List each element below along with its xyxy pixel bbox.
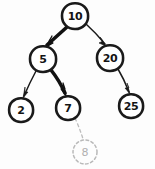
node-20-label: 20 [103, 52, 118, 65]
node-5[interactable]: 5 [30, 46, 56, 72]
node-25[interactable]: 25 [119, 94, 143, 118]
node-7[interactable]: 7 [56, 96, 80, 120]
node-2-label: 2 [17, 104, 24, 117]
edge-10-to-20 [86, 24, 106, 46]
edge-20-to-25 [118, 69, 130, 94]
edge-10-to-5 [46, 27, 67, 47]
node-7-label: 7 [64, 102, 71, 115]
edge-7-to-8 [75, 118, 83, 139]
tree-svg-canvas: 10 5 20 2 7 [0, 0, 155, 169]
node-5-label: 5 [39, 53, 46, 66]
edge-7-to-8-line [75, 118, 83, 139]
node-10[interactable]: 10 [62, 3, 88, 29]
node-20[interactable]: 20 [97, 45, 123, 71]
node-8-ghost-label: 8 [82, 146, 89, 159]
node-8-ghost[interactable]: 8 [73, 140, 97, 164]
node-2[interactable]: 2 [9, 98, 33, 122]
binary-tree-diagram: 10 5 20 2 7 [0, 0, 155, 169]
edge-5-to-2 [23, 71, 36, 98]
node-10-label: 10 [68, 10, 83, 23]
edge-5-to-7 [51, 70, 66, 96]
edge-group [23, 24, 130, 139]
edge-10-to-20-line [86, 24, 105, 44]
node-25-label: 25 [124, 100, 139, 113]
